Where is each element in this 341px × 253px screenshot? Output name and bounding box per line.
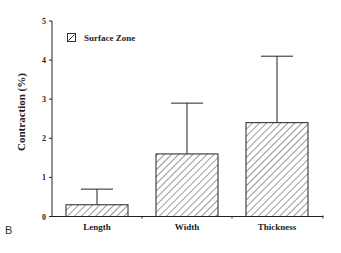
y-axis: 012345 xyxy=(42,17,52,222)
bar-length: Length xyxy=(66,189,128,232)
y-tick-label: 1 xyxy=(42,173,46,182)
legend: Surface Zone xyxy=(68,33,136,43)
bars: LengthWidthThickness xyxy=(66,56,308,232)
bar-chart: 012345 LengthWidthThickness Contraction … xyxy=(0,0,341,253)
y-tick-label: 2 xyxy=(42,134,46,143)
bar-width: Width xyxy=(156,103,218,232)
legend-label: Surface Zone xyxy=(84,33,135,43)
y-tick-label: 3 xyxy=(42,95,46,104)
bar-thickness: Thickness xyxy=(246,56,308,232)
x-category-label: Width xyxy=(175,222,199,232)
bar-rect xyxy=(246,123,308,217)
y-tick-label: 0 xyxy=(42,213,46,222)
panel-label: B xyxy=(5,224,12,236)
x-category-label: Length xyxy=(83,222,111,232)
y-axis-label: Contraction (%) xyxy=(15,73,28,151)
y-tick-label: 5 xyxy=(42,17,46,26)
y-tick-label: 4 xyxy=(42,56,46,65)
bar-rect xyxy=(156,154,218,217)
x-category-label: Thickness xyxy=(258,222,297,232)
bar-rect xyxy=(66,205,128,217)
